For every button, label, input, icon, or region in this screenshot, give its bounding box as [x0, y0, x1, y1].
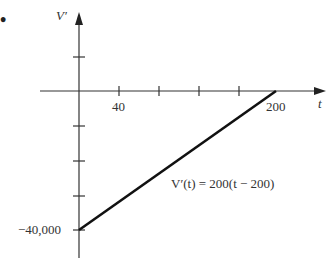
- x-axis-arrow-icon: [314, 87, 326, 95]
- y-tick-label-min: −40,000: [18, 222, 61, 238]
- equation-annotation: V′(t) = 200(t − 200): [171, 176, 274, 192]
- series-line: [79, 91, 276, 230]
- y-axis-label: V′: [56, 8, 67, 24]
- chart-canvas: [0, 0, 330, 259]
- x-axis-label: t: [318, 96, 322, 112]
- y-axis-arrow-icon: [75, 12, 83, 25]
- x-tick-label-40: 40: [112, 99, 125, 115]
- x-tick-label-200: 200: [266, 99, 286, 115]
